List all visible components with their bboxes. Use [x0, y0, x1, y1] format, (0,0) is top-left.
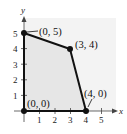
y-tick-4: 4 — [13, 44, 18, 54]
x-tick-5: 5 — [99, 115, 104, 125]
vertex-0-5 — [21, 30, 27, 36]
y-tick-3: 3 — [13, 60, 18, 70]
vertex-4-0 — [83, 108, 89, 114]
vertex-3-4 — [67, 46, 73, 52]
vertex-label-4-0: (4, 0) — [84, 88, 107, 100]
vertex-label-0-5: (0, 5) — [39, 26, 62, 38]
x-tick-2: 2 — [53, 115, 58, 125]
x-tick-3: 3 — [68, 115, 73, 125]
x-tick-4: 4 — [84, 115, 89, 125]
y-tick-5: 5 — [13, 29, 18, 39]
x-axis-label: x — [118, 106, 123, 116]
y-tick-2: 2 — [13, 75, 18, 85]
x-tick-1: 1 — [37, 115, 42, 125]
feasible-region-diagram: y x 1 2 3 4 5 1 2 3 4 5 (0, 0) (0, 5) (3… — [0, 0, 127, 134]
y-tick-1: 1 — [13, 91, 18, 101]
vertex-label-0-0: (0, 0) — [27, 98, 50, 110]
vertex-label-3-4: (3, 4) — [75, 39, 98, 51]
y-axis-label: y — [20, 5, 25, 15]
